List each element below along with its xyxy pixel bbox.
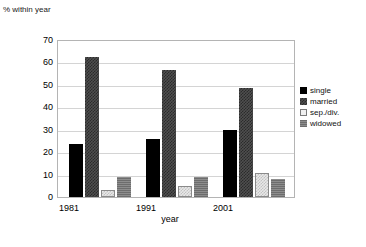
legend-label-married: married <box>310 97 337 106</box>
bar-1991-widowed[interactable] <box>194 177 208 197</box>
bar-1991-married[interactable] <box>162 70 176 197</box>
y-axis-title: % within year <box>3 5 51 15</box>
y-tick-label-50: 50 <box>13 81 53 90</box>
legend-swatch-widowed-icon <box>300 120 307 127</box>
legend-item-sepdiv[interactable]: sep./div. <box>300 107 341 118</box>
bar-1981-widowed[interactable] <box>117 177 131 197</box>
bar-1981-married[interactable] <box>85 57 99 197</box>
bars-layer <box>58 41 294 197</box>
y-tick-label-10: 10 <box>13 171 53 180</box>
legend-swatch-single-icon <box>300 87 307 94</box>
y-tick-label-30: 30 <box>13 126 53 135</box>
legend-item-married[interactable]: married <box>300 96 341 107</box>
legend-item-widowed[interactable]: widowed <box>300 118 341 129</box>
y-tick-label-0: 0 <box>13 193 53 202</box>
bar-2001-sepdiv[interactable] <box>255 173 269 198</box>
y-tick-label-20: 20 <box>13 148 53 157</box>
x-tick-label-1991: 1991 <box>111 203 181 213</box>
legend-item-single[interactable]: single <box>300 85 341 96</box>
bar-1981-single[interactable] <box>69 144 83 197</box>
legend-swatch-sepdiv-icon <box>300 109 307 116</box>
x-tick-label-2001: 2001 <box>188 203 258 213</box>
legend-label-widowed: widowed <box>310 119 341 128</box>
legend: single married sep./div. widowed <box>300 85 341 129</box>
bar-2001-married[interactable] <box>239 88 253 197</box>
x-tick-label-1981: 1981 <box>34 203 104 213</box>
bar-group-2001 <box>223 41 285 197</box>
y-tick-label-40: 40 <box>13 103 53 112</box>
legend-label-sepdiv: sep./div. <box>310 108 339 117</box>
y-tick-label-60: 60 <box>13 58 53 67</box>
legend-swatch-married-icon <box>300 98 307 105</box>
bar-2001-single[interactable] <box>223 130 237 197</box>
y-tick-label-70: 70 <box>13 36 53 45</box>
bar-1991-single[interactable] <box>146 139 160 197</box>
bar-group-1981 <box>69 41 131 197</box>
plot-area <box>57 40 295 198</box>
legend-label-single: single <box>310 86 331 95</box>
bar-1991-sepdiv[interactable] <box>178 186 192 197</box>
x-axis-title: year <box>0 214 340 224</box>
bar-group-1991 <box>146 41 208 197</box>
bar-1981-sepdiv[interactable] <box>101 190 115 197</box>
bar-2001-widowed[interactable] <box>271 179 285 197</box>
